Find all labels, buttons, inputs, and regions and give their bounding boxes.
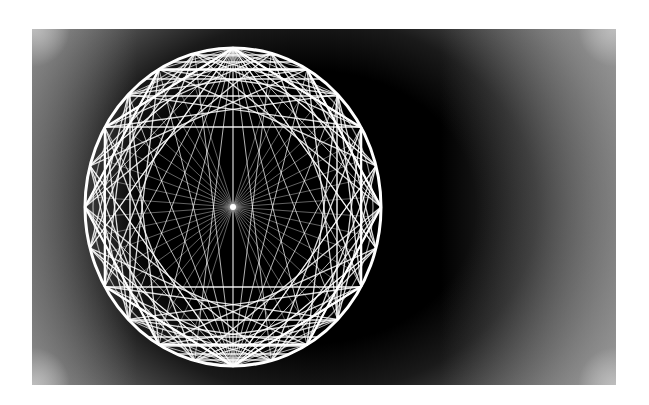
hexagon-edge bbox=[85, 207, 159, 345]
hexagon-edge bbox=[233, 287, 361, 367]
hexagon-edge bbox=[105, 287, 233, 367]
hexagon-edge bbox=[85, 69, 159, 207]
hexagon-edge bbox=[307, 207, 381, 345]
center-point bbox=[230, 204, 236, 210]
hexagon-edge bbox=[233, 48, 361, 128]
center-glow bbox=[230, 204, 236, 210]
figure-canvas bbox=[0, 0, 649, 405]
hexagon-edge bbox=[307, 69, 381, 207]
radial-ray bbox=[173, 207, 233, 338]
radial-ray bbox=[233, 207, 293, 338]
hexagon-edge bbox=[105, 48, 233, 128]
wireframe-sphere-diagram bbox=[0, 0, 649, 405]
